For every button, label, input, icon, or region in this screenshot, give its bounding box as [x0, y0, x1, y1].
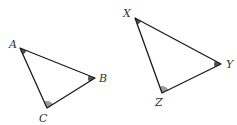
vertex-label-y: Y — [226, 58, 235, 71]
similar-triangles-diagram: A B C X Y Z — [0, 0, 237, 125]
vertex-label-a: A — [8, 38, 17, 51]
vertex-label-c: C — [39, 112, 48, 125]
vertex-label-x: X — [122, 7, 132, 20]
triangle-abc: A B C — [8, 38, 107, 125]
vertex-label-z: Z — [154, 96, 163, 109]
triangle-abc-outline — [20, 48, 95, 108]
triangle-xyz-outline — [135, 18, 221, 93]
vertex-label-b: B — [98, 72, 107, 85]
triangle-xyz: X Y Z — [122, 7, 235, 109]
